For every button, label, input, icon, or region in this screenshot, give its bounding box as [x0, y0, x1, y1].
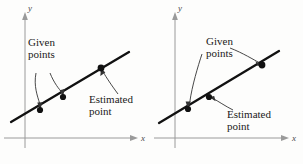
extrapolation-plot — [151, 0, 303, 164]
estimated-point-label-line1: Estimated — [227, 108, 271, 120]
given-points-label-line2: points — [206, 47, 233, 59]
estimated-point-label: Estimated point — [227, 108, 271, 133]
data-point-estimated — [98, 65, 105, 72]
figure-interpolation-extrapolation: y x Given points Estimated point — [0, 0, 303, 164]
estimated-point-label: Estimated point — [89, 93, 133, 118]
estimated-point-label-line1: Estimated — [89, 93, 133, 105]
y-axis — [22, 12, 28, 148]
estimated-point-label-line2: point — [89, 105, 133, 117]
data-point-given-1 — [37, 107, 43, 113]
data-point-given-2 — [60, 94, 66, 100]
estimated-point-label-line2: point — [227, 120, 271, 132]
given-points-label-line2: points — [28, 48, 55, 60]
interpolation-panel: y x Given points Estimated point — [0, 0, 152, 164]
y-axis-label: y — [28, 4, 32, 13]
x-axis-label: x — [141, 134, 145, 143]
x-axis — [154, 135, 289, 141]
extrapolation-panel: y x Given points Estimated point — [151, 0, 303, 164]
x-axis-label: x — [292, 134, 296, 143]
given-points-label: Given points — [206, 35, 233, 60]
y-axis — [172, 12, 178, 148]
given-points-label: Given points — [28, 36, 55, 61]
data-point-estimated — [206, 94, 212, 100]
given-points-label-line1: Given — [206, 35, 233, 47]
x-axis — [4, 135, 138, 141]
interpolation-plot — [0, 0, 152, 164]
given-points-label-line1: Given — [28, 36, 55, 48]
estimated-point-leader-arrow — [104, 73, 119, 95]
data-point-given-2 — [259, 62, 266, 69]
data-point-given-1 — [185, 106, 191, 112]
y-axis-label: y — [178, 4, 182, 13]
